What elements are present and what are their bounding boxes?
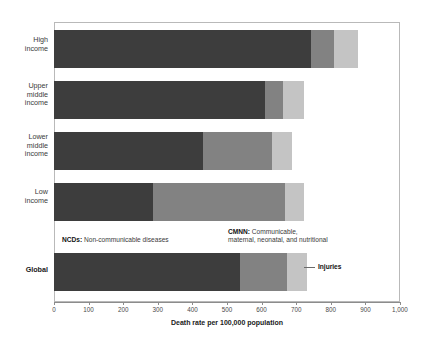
x-tick <box>331 302 332 305</box>
x-tick-label: 300 <box>153 306 164 313</box>
segment-cmnn <box>240 253 287 291</box>
y-axis-label-high-income: High income <box>25 36 48 53</box>
y-axis-label-global: Global <box>26 266 48 275</box>
bar-global <box>54 253 307 291</box>
segment-cmnn <box>153 183 285 221</box>
x-tick-label: 400 <box>187 306 198 313</box>
x-tick-label: 500 <box>222 306 233 313</box>
x-tick-label: 900 <box>360 306 371 313</box>
bar-upper-middle-income <box>54 81 305 119</box>
x-tick <box>123 302 124 305</box>
segment-injuries <box>272 132 292 170</box>
x-tick-label: 800 <box>326 306 337 313</box>
x-tick-label: 700 <box>291 306 302 313</box>
bar-low-income <box>54 183 305 221</box>
x-tick <box>54 302 55 305</box>
x-tick <box>365 302 366 305</box>
injuries-leader-line <box>304 267 315 268</box>
y-axis-label-lower-middle-income: Lower middle income <box>25 133 48 159</box>
bar-lower-middle-income <box>54 132 292 170</box>
x-tick-label: 100 <box>83 306 94 313</box>
segment-ncds <box>54 183 153 221</box>
bar-high-income <box>54 30 358 68</box>
segment-ncds <box>54 253 240 291</box>
annotation-injuries: Injuries <box>318 263 341 271</box>
segment-ncds <box>54 81 265 119</box>
segment-cmnn <box>311 30 334 68</box>
annotation-ncds-key: NCDs: <box>62 236 82 243</box>
y-axis-label-upper-middle-income: Upper middle income <box>25 82 48 108</box>
segment-ncds <box>54 132 203 170</box>
x-tick <box>296 302 297 305</box>
annotation-ncds: NCDs: Non-communicable diseases <box>62 236 169 244</box>
segment-cmnn <box>265 81 283 119</box>
x-tick <box>89 302 90 305</box>
x-tick-label: 200 <box>118 306 129 313</box>
stacked-bar-chart: High income Upper middle income Lower mi… <box>0 0 423 345</box>
segment-injuries <box>285 183 305 221</box>
annotation-cmnn: CMNN: Communicable, maternal, neonatal, … <box>228 228 328 244</box>
segment-ncds <box>54 30 311 68</box>
y-axis-label-low-income: Low income <box>25 188 48 205</box>
annotation-cmnn-key: CMNN: <box>228 228 250 235</box>
x-tick <box>400 302 401 305</box>
segment-injuries <box>287 253 307 291</box>
x-tick <box>158 302 159 305</box>
x-tick-label: 0 <box>52 306 56 313</box>
x-tick <box>227 302 228 305</box>
x-tick <box>262 302 263 305</box>
segment-injuries <box>283 81 305 119</box>
x-tick <box>192 302 193 305</box>
annotation-ncds-text: Non-communicable diseases <box>82 236 169 243</box>
x-tick-label: 600 <box>256 306 267 313</box>
segment-cmnn <box>203 132 272 170</box>
x-axis-title: Death rate per 100,000 population <box>54 319 400 326</box>
x-tick-label: 1,000 <box>392 306 408 313</box>
segment-injuries <box>334 30 358 68</box>
